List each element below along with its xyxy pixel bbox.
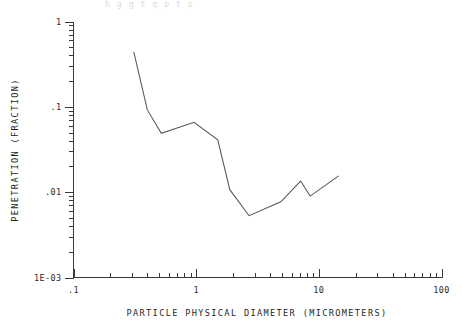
y-tick-label: 1E-03 bbox=[34, 273, 62, 283]
x-tick-label: 10 bbox=[313, 285, 324, 295]
x-tick-label: .1 bbox=[68, 285, 79, 295]
y-tick-label: .01 bbox=[45, 187, 62, 197]
chart-canvas: 1.1.011E-03 .1110100 PARTICLE PHYSICAL D… bbox=[0, 0, 462, 329]
x-axis-tick-labels: .1110100 bbox=[68, 285, 450, 295]
y-axis-tick-labels: 1.1.011E-03 bbox=[34, 17, 62, 283]
x-tick-label: 1 bbox=[193, 285, 199, 295]
x-axis-title: PARTICLE PHYSICAL DIAMETER (MICROMETERS) bbox=[127, 308, 388, 318]
x-tick-label: 100 bbox=[433, 285, 450, 295]
y-axis-title: PENETRATION (FRACTION) bbox=[10, 78, 20, 222]
penetration-curve bbox=[134, 52, 339, 216]
axes-frame bbox=[74, 22, 442, 278]
y-tick-label: .1 bbox=[50, 102, 61, 112]
x-axis-ticks bbox=[75, 269, 443, 278]
y-axis-ticks bbox=[65, 23, 74, 279]
penetration-chart: h g g t q p t p 1.1.011E-03 .1110100 PAR… bbox=[0, 0, 462, 329]
y-tick-label: 1 bbox=[56, 17, 62, 27]
